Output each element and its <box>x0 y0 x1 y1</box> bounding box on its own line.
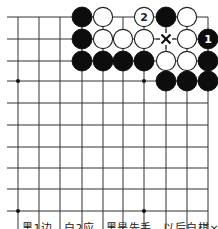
black-stone <box>198 71 218 91</box>
star-point <box>16 79 20 83</box>
diagram-caption: 黑1边，白2应，黑是先手，以后白棋×位 <box>22 219 218 229</box>
black-stone <box>156 7 176 27</box>
white-stone <box>93 29 112 48</box>
go-board-diagram: 21 <box>0 0 218 229</box>
white-stone: 2 <box>134 7 153 26</box>
black-stone: 1 <box>198 29 218 49</box>
black-stone <box>93 51 113 71</box>
black-stone <box>156 71 176 91</box>
star-point <box>16 209 20 213</box>
black-stone <box>72 7 92 27</box>
star-point <box>142 79 146 83</box>
black-stone <box>72 51 92 71</box>
white-stone <box>156 51 175 70</box>
board-grid <box>7 17 208 229</box>
star-points <box>16 79 146 213</box>
move-number-label: 2 <box>140 11 148 24</box>
black-stone <box>113 51 133 71</box>
white-stone <box>93 7 112 26</box>
white-stone <box>134 29 153 48</box>
move-number-label: 1 <box>204 33 212 46</box>
black-stone <box>134 51 154 71</box>
white-stone <box>177 7 196 26</box>
white-stone <box>113 29 132 48</box>
black-stone <box>177 71 197 91</box>
marks-layer <box>156 29 176 49</box>
white-stone <box>177 51 196 70</box>
star-point <box>142 209 146 213</box>
black-stone <box>198 51 218 71</box>
black-stone <box>72 29 92 49</box>
stones-layer: 21 <box>72 7 218 91</box>
x-mark-icon <box>156 29 176 49</box>
white-stone <box>177 29 196 48</box>
